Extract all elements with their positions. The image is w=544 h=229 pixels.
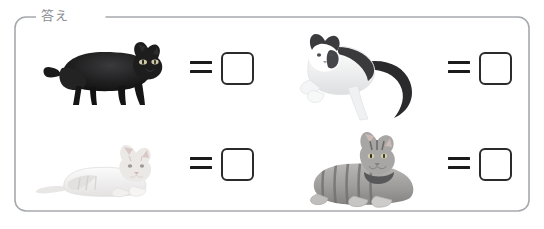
equals-sign-1 — [190, 60, 212, 77]
cat-slot-1 — [14, 20, 190, 116]
equals-sign-4 — [448, 156, 470, 173]
equals-sign-3 — [190, 156, 212, 173]
problem-row-1 — [14, 20, 272, 116]
answer-box-3[interactable] — [221, 148, 254, 181]
answer-box-1[interactable] — [221, 52, 254, 85]
equals-sign-2 — [448, 60, 470, 77]
problem-grid — [14, 20, 530, 212]
cream-cat-photo — [34, 134, 174, 200]
problem-row-3 — [14, 116, 272, 212]
answer-panel: 答え — [14, 16, 530, 212]
panel-legend: 答え — [36, 7, 74, 25]
tabby-cat-photo — [306, 126, 436, 208]
problem-row-2 — [272, 20, 530, 116]
cat-slot-3 — [14, 116, 190, 212]
black-cat-photo — [38, 34, 174, 106]
answer-box-4[interactable] — [479, 148, 512, 181]
cat-slot-4 — [272, 116, 448, 212]
problem-row-4 — [272, 116, 530, 212]
cat-slot-2 — [272, 20, 448, 116]
answer-box-2[interactable] — [479, 52, 512, 85]
tuxedo-cat-photo — [290, 22, 430, 122]
